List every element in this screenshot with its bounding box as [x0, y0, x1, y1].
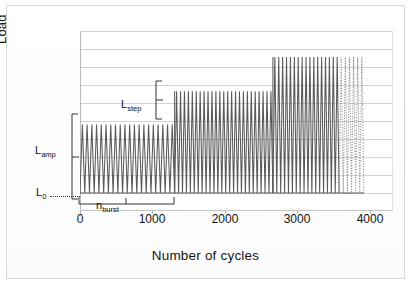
l-step-label: Lstep — [121, 98, 141, 113]
l-amp-bracket — [66, 113, 82, 201]
x-axis-label: Number of cycles — [0, 248, 411, 263]
l-amp-subscript: amp — [41, 150, 56, 159]
l-amp-label: Lamp — [35, 144, 56, 159]
y-axis-label: Load — [0, 14, 9, 44]
x-tick-label-3000: 3000 — [275, 212, 319, 226]
burst-path-burst-3 — [273, 57, 339, 193]
l-zero-label: L0 — [36, 186, 46, 201]
burst-path-burst-3-continued — [339, 57, 364, 193]
load-waveform — [80, 31, 393, 211]
l-step-subscript: step — [127, 104, 141, 113]
burst-path-burst-1 — [80, 125, 175, 193]
x-tick-label-4000: 4000 — [348, 212, 392, 226]
l-zero-leader — [50, 196, 80, 197]
n-burst-subscript: burst — [102, 205, 119, 214]
n-burst-bracket — [78, 196, 178, 208]
l-step-bracket — [152, 80, 166, 122]
x-tick-label-2000: 2000 — [203, 212, 247, 226]
x-tick-label-1000: 1000 — [130, 212, 174, 226]
burst-path-burst-2 — [175, 91, 273, 193]
n-burst-label: nburst — [96, 199, 119, 214]
l-zero-subscript: 0 — [42, 192, 46, 201]
